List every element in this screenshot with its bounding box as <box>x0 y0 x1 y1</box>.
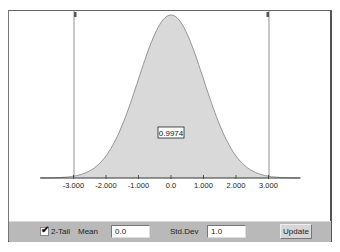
x-tick-label: -1.000 <box>128 181 149 190</box>
x-tick-label: 2.000 <box>227 181 246 190</box>
two-tail-label: 2-Tail <box>51 227 70 236</box>
toolbar: ✔ 2-Tail Mean 0.0 Std.Dev 1.0 Update <box>9 221 331 242</box>
x-tick-label: -3.000 <box>63 181 84 190</box>
check-icon: ✔ <box>41 225 49 235</box>
mean-input[interactable]: 0.0 <box>111 225 150 238</box>
lower-bound-handle[interactable] <box>74 12 77 17</box>
upper-bound-handle[interactable] <box>267 12 270 17</box>
x-tick-label: 0.0 <box>166 181 176 190</box>
shaded-area <box>74 15 269 178</box>
two-tail-checkbox[interactable]: ✔ <box>40 227 49 236</box>
x-tick-label: -2.000 <box>95 181 116 190</box>
x-tick-label: 1.000 <box>194 181 213 190</box>
std-dev-input[interactable]: 1.0 <box>207 225 246 238</box>
normal-distribution-plot: -3.000-2.000-1.0000.01.0002.0003.000 0.9… <box>0 0 340 252</box>
update-button[interactable]: Update <box>280 224 312 239</box>
mean-label: Mean <box>78 227 98 236</box>
std-dev-label: Std.Dev <box>170 227 198 236</box>
x-tick-label: 3.000 <box>259 181 278 190</box>
area-value-label: 0.9974 <box>159 129 184 138</box>
